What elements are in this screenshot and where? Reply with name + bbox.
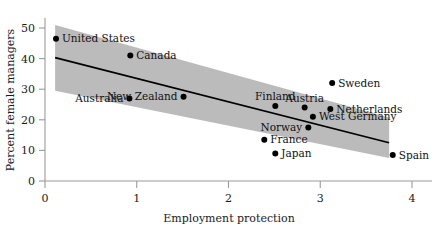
y-tick-label: 50 — [21, 22, 35, 35]
x-tick-label: 4 — [409, 192, 416, 205]
scatter-chart-root: 01020304050 01234 United StatesCanadaAus… — [0, 0, 440, 232]
data-point-label: Canada — [136, 49, 176, 61]
data-point-marker — [261, 137, 267, 143]
data-point: West Germany — [310, 110, 397, 122]
x-axis-title: Employment protection — [163, 212, 294, 225]
data-point-label: France — [270, 133, 307, 145]
data-point: Spain — [390, 149, 430, 161]
data-point-marker — [302, 105, 308, 111]
data-point-marker — [310, 114, 316, 120]
data-point-label: Sweden — [338, 77, 380, 89]
data-point: New Zealand — [107, 90, 187, 102]
data-point-marker — [181, 94, 187, 100]
data-point-marker — [272, 150, 278, 156]
x-tick-label: 2 — [225, 192, 232, 205]
data-point-marker — [53, 36, 59, 42]
data-point-marker — [305, 124, 311, 130]
y-tick-label: 0 — [28, 175, 35, 188]
y-tick-group: 01020304050 — [21, 22, 45, 188]
data-point: Sweden — [329, 77, 380, 89]
data-point-label: United States — [62, 32, 135, 44]
data-point-marker — [272, 103, 278, 109]
data-point: France — [261, 133, 307, 145]
data-point: Japan — [272, 147, 311, 159]
x-tick-label: 1 — [133, 192, 140, 205]
y-tick-label: 30 — [21, 83, 35, 96]
data-point-marker — [329, 80, 335, 86]
y-tick-label: 10 — [21, 144, 35, 157]
data-point-marker — [127, 53, 133, 59]
chart-svg: 01020304050 01234 United StatesCanadaAus… — [0, 0, 440, 232]
data-point-label: Japan — [280, 147, 311, 159]
x-tick-label: 3 — [317, 192, 324, 205]
x-tick-group: 01234 — [42, 181, 416, 205]
data-point-label: Spain — [399, 149, 430, 161]
data-point: United States — [53, 32, 135, 44]
data-point-marker — [390, 152, 396, 158]
y-tick-label: 40 — [21, 53, 35, 66]
x-tick-label: 0 — [42, 192, 49, 205]
data-point-label: West Germany — [319, 110, 397, 122]
y-axis-title: Percent female managers — [4, 28, 17, 171]
y-tick-label: 20 — [21, 114, 35, 127]
data-point-label: Austria — [284, 92, 324, 104]
data-point-label: New Zealand — [107, 90, 178, 102]
data-point-label: Norway — [261, 121, 303, 133]
